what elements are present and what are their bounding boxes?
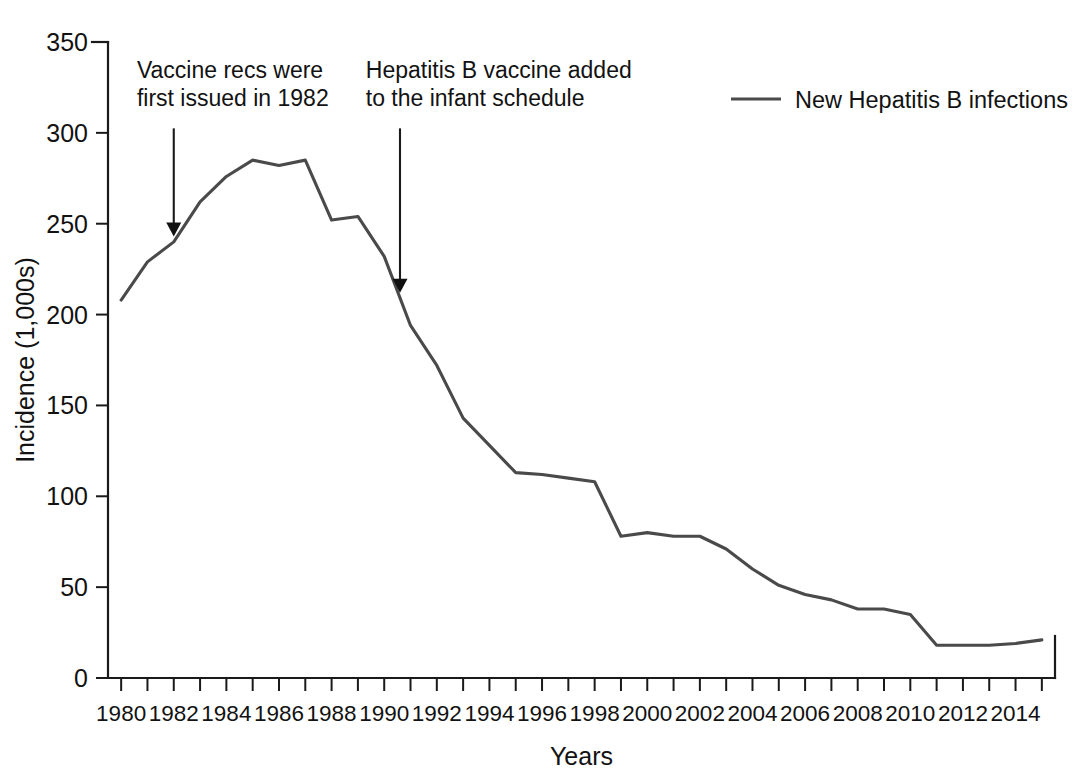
y-tick-label-0: 0 bbox=[74, 664, 88, 692]
y-tick-label-300: 300 bbox=[46, 119, 88, 147]
y-tick-label-200: 200 bbox=[46, 301, 88, 329]
x-tick-label-2008: 2008 bbox=[833, 701, 883, 726]
x-tick-label-2012: 2012 bbox=[938, 701, 988, 726]
x-tick-label-1998: 1998 bbox=[570, 701, 620, 726]
x-tick-label-1992: 1992 bbox=[412, 701, 462, 726]
y-tick-label-50: 50 bbox=[60, 573, 88, 601]
x-tick-label-1982: 1982 bbox=[149, 701, 199, 726]
axis-spines bbox=[108, 42, 1055, 678]
x-tick-label-2014: 2014 bbox=[991, 701, 1041, 726]
data-series-0 bbox=[121, 160, 1042, 645]
annotation-vaccine-recs-line-1: first issued in 1982 bbox=[137, 85, 329, 111]
y-tick-label-150: 150 bbox=[46, 391, 88, 419]
x-tick-label-1994: 1994 bbox=[464, 701, 514, 726]
line-chart: 0501001502002503003501980198219841986198… bbox=[0, 0, 1083, 775]
y-tick-label-250: 250 bbox=[46, 210, 88, 238]
x-tick-label-2010: 2010 bbox=[885, 701, 935, 726]
x-tick-label-2002: 2002 bbox=[675, 701, 725, 726]
x-tick-label-1990: 1990 bbox=[359, 701, 409, 726]
annotation-infant-schedule-line-1: to the infant schedule bbox=[366, 85, 585, 111]
annotation-vaccine-recs-line-0: Vaccine recs were bbox=[137, 57, 323, 83]
x-tick-label-1986: 1986 bbox=[254, 701, 304, 726]
x-tick-label-2000: 2000 bbox=[622, 701, 672, 726]
y-tick-label-350: 350 bbox=[46, 28, 88, 56]
chart-page: 0501001502002503003501980198219841986198… bbox=[0, 0, 1083, 775]
x-tick-label-1980: 1980 bbox=[96, 701, 146, 726]
x-tick-label-1996: 1996 bbox=[517, 701, 567, 726]
legend-label-0: New Hepatitis B infections bbox=[795, 87, 1068, 113]
y-tick-label-100: 100 bbox=[46, 482, 88, 510]
x-tick-label-2004: 2004 bbox=[727, 701, 777, 726]
x-tick-label-1988: 1988 bbox=[307, 701, 357, 726]
y-axis-title: Incidence (1,000s) bbox=[11, 257, 39, 463]
x-axis-title: Years bbox=[550, 742, 613, 770]
x-tick-label-2006: 2006 bbox=[780, 701, 830, 726]
annotation-infant-schedule-line-0: Hepatitis B vaccine added bbox=[366, 57, 632, 83]
x-tick-label-1984: 1984 bbox=[201, 701, 251, 726]
